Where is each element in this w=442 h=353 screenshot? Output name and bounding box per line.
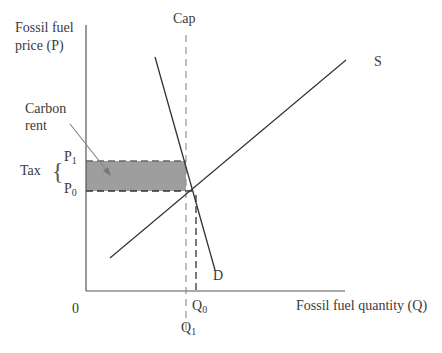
y-axis-label-line1: Fossil fuel bbox=[15, 20, 74, 36]
y-axis-label-line2: price (P) bbox=[15, 38, 64, 54]
supply-curve bbox=[110, 60, 346, 258]
carbon-rent-label-line2: rent bbox=[25, 118, 47, 134]
q0-label: Q0 bbox=[192, 298, 207, 318]
tax-brace: { bbox=[52, 158, 64, 184]
p0-label: P0 bbox=[64, 181, 77, 201]
origin-label: 0 bbox=[72, 301, 79, 317]
q1-label: Q1 bbox=[181, 320, 196, 340]
x-axis-label: Fossil fuel quantity (Q) bbox=[296, 298, 427, 314]
tax-label: Tax bbox=[20, 163, 41, 179]
carbon-rent-area bbox=[86, 161, 186, 191]
demand-label: D bbox=[213, 268, 223, 284]
supply-label: S bbox=[374, 54, 382, 70]
p1-label: P1 bbox=[64, 149, 77, 169]
carbon-rent-label-line1: Carbon bbox=[25, 101, 66, 117]
cap-label: Cap bbox=[173, 11, 196, 27]
